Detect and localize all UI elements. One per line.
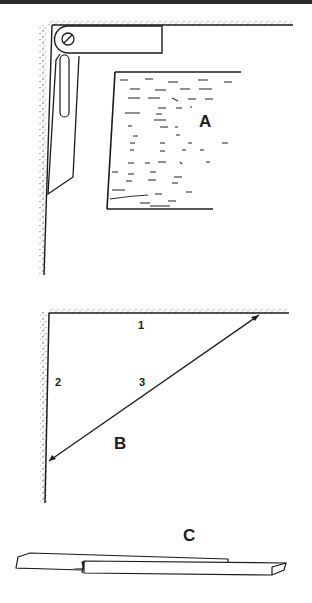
label-b: B	[114, 435, 126, 452]
bevel-blade	[48, 54, 79, 194]
blade-slot	[60, 55, 69, 117]
panel-b	[40, 309, 289, 503]
label-side-1: 1	[138, 320, 144, 331]
arrowhead-icon	[49, 455, 56, 461]
diagram-canvas	[0, 0, 312, 603]
label-side-3: 3	[139, 377, 145, 388]
wood-grain	[110, 79, 232, 206]
hypotenuse-line	[49, 315, 259, 461]
bevel-handle	[55, 26, 163, 53]
label-side-2: 2	[55, 377, 61, 388]
label-a: A	[199, 113, 211, 130]
label-c: C	[183, 527, 195, 544]
panel-c	[16, 553, 286, 575]
panel-a	[39, 21, 293, 275]
